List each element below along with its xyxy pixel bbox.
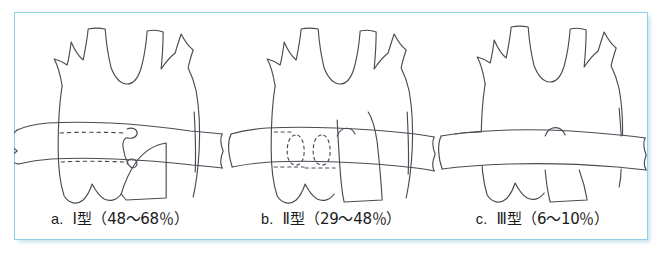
- panel-b-svg: [225, 12, 436, 208]
- descending-vessel-c: [545, 170, 587, 202]
- band-lower-edge-b: [232, 161, 434, 171]
- panel-a-letter: a.: [51, 211, 64, 227]
- vertical-vessel-right-b: [407, 112, 408, 174]
- vessel-lower-left-b: [271, 86, 334, 203]
- hidden-segment-right-b: [313, 135, 330, 165]
- panel-c-range-label: （6〜10％）: [522, 210, 609, 228]
- panel-c-type-label: Ⅲ型: [497, 210, 523, 228]
- band-lower-edge-a: [18, 158, 222, 168]
- panel-c: c.Ⅲ型（6〜10％）: [437, 12, 648, 240]
- hidden-vessel-lower-a: [61, 161, 124, 162]
- band-right-terminus-a: [221, 134, 224, 168]
- band-left-terminus-a: [14, 130, 18, 164]
- panel-c-illustration: [437, 12, 648, 208]
- band-right-terminus-b: [433, 137, 436, 171]
- panel-a-type-label: Ⅰ型: [73, 210, 93, 228]
- panel-c-caption: c.Ⅲ型（6〜10％）: [437, 207, 648, 228]
- panel-b-caption: b.Ⅱ型（29〜48％）: [225, 207, 436, 228]
- figure-root: a.Ⅰ型（48〜68％）: [0, 0, 669, 272]
- vessel-hook-a: [123, 128, 137, 168]
- panel-a-range-label: （48〜68％）: [92, 210, 188, 228]
- hidden-segment-left-b: [287, 135, 304, 165]
- descending-vessel-b: [337, 112, 382, 202]
- panel-c-letter: c.: [476, 211, 488, 227]
- panel-row: a.Ⅰ型（48〜68％）: [14, 12, 648, 240]
- panel-b: b.Ⅱ型（29〜48％）: [225, 12, 436, 240]
- vessel-outline-a: [54, 28, 199, 197]
- panel-b-letter: b.: [261, 211, 274, 227]
- descending-vessel-a: [121, 143, 166, 200]
- vessel-lower-left-a: [58, 86, 121, 203]
- band-left-terminus-b: [229, 134, 233, 167]
- panel-a: a.Ⅰ型（48〜68％）: [14, 12, 225, 240]
- panel-c-svg: [437, 12, 648, 208]
- panel-a-svg: [14, 12, 225, 208]
- vessel-outline-c: [477, 26, 622, 144]
- panel-b-type-label: Ⅱ型: [282, 210, 305, 228]
- panel-b-illustration: [225, 12, 436, 208]
- vertical-vessel-right-a: [194, 112, 195, 172]
- band-upper-edge-b: [231, 127, 434, 137]
- hidden-vessel-upper-a: [60, 132, 126, 133]
- panel-b-range-label: （29〜48％）: [305, 210, 401, 228]
- panel-a-illustration: [14, 12, 225, 208]
- vessel-arch-b: [337, 128, 355, 136]
- panel-a-caption: a.Ⅰ型（48〜68％）: [14, 207, 225, 228]
